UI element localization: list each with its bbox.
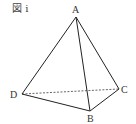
edge-dc-hidden: [22, 89, 119, 94]
edge-db: [22, 94, 90, 111]
edge-ad: [22, 17, 76, 94]
vertex-label-d: D: [10, 89, 17, 100]
vertex-label-b: B: [87, 113, 94, 124]
tetrahedron-diagram: A B C D: [0, 0, 136, 124]
vertex-label-c: C: [121, 84, 128, 95]
edge-bc: [90, 89, 119, 111]
vertex-label-a: A: [72, 4, 80, 15]
edge-ab: [76, 17, 90, 111]
edge-ac: [76, 17, 119, 89]
